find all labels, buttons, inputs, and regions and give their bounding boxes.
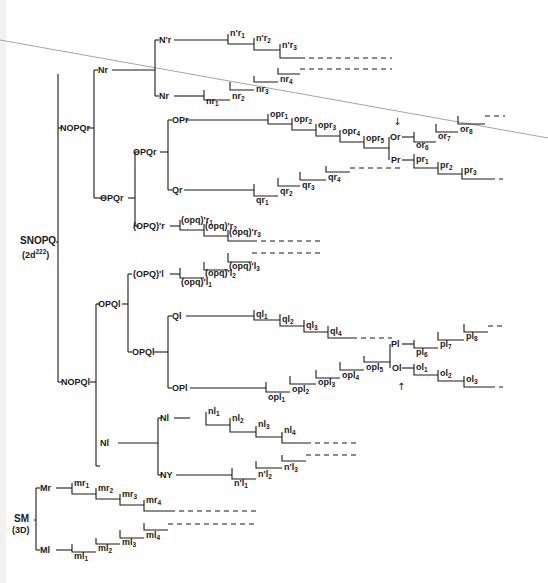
arrow-up-icon: ↑ xyxy=(397,381,405,392)
blast-n-prime-l-2: n'l2 xyxy=(258,469,272,482)
blast-m-l-1: ml1 xyxy=(74,551,88,564)
node-p-l: Pl xyxy=(391,339,400,349)
blast-op-l-1: opl1 xyxy=(268,392,285,405)
blast-q-l-3: ql3 xyxy=(306,320,318,333)
blast-n-r-4: nr4 xyxy=(280,74,293,87)
node-opq-l-inner: OPQl xyxy=(132,347,155,357)
blast-o-r-6: or6 xyxy=(416,140,429,153)
blast-o-l-1: ol1 xyxy=(416,362,428,375)
blast-op-r-2: opr2 xyxy=(294,114,312,127)
node-opq-r: OPQr xyxy=(100,193,124,203)
node-o-l: Ol xyxy=(392,363,402,373)
blast-q-r-4: qr4 xyxy=(328,172,341,185)
blast-n-l-3: nl3 xyxy=(258,419,270,432)
blast-op-l-4: opl4 xyxy=(342,370,359,383)
node-q-r: Qr xyxy=(172,185,183,195)
blast-p-r-3: pr3 xyxy=(464,165,477,178)
node-opq-prime-l: (OPQ)'l xyxy=(133,269,164,279)
node-n-r: Nr xyxy=(98,65,108,75)
blast-m-l-3: ml3 xyxy=(122,537,136,550)
node-nopq-r: NOPQr xyxy=(60,123,90,133)
blast-p-l-7: pl7 xyxy=(440,339,452,352)
node-opq-r-inner: OPQr xyxy=(133,147,157,157)
blast-p-r-1: pr1 xyxy=(416,154,429,167)
blast-n-prime-l-1: n'l1 xyxy=(234,478,248,491)
node-nopq-l: NOPQl xyxy=(61,377,90,387)
blast-o-r-8: or8 xyxy=(460,124,473,137)
blast-n-prime-r-1: n'r1 xyxy=(230,28,245,41)
blast-o-r-7: or7 xyxy=(438,131,451,144)
blast-m-l-2: ml2 xyxy=(98,543,112,556)
blast-op-r-3: opr3 xyxy=(318,120,336,133)
blast-q-l-1: ql1 xyxy=(256,309,268,322)
node-p-r: Pr xyxy=(391,155,401,165)
node-n-prime-r: N'r xyxy=(159,35,171,45)
root-snopq-sublabel: (2d222) xyxy=(22,247,49,260)
blast-n-prime-l-3: n'l3 xyxy=(284,462,298,475)
node-n-l-sub: Nl xyxy=(160,413,169,423)
blast-p-l-8: pl8 xyxy=(466,331,478,344)
blast-n-r-3: nr3 xyxy=(256,84,269,97)
blast-op-l-3: opl3 xyxy=(318,377,335,390)
node-q-l: Ql xyxy=(172,311,182,321)
blast-n-l-1: nl1 xyxy=(208,406,220,419)
root-sm-sublabel: (3D) xyxy=(12,525,30,535)
blast-m-r-3: mr3 xyxy=(122,489,137,502)
blast-q-l-2: ql2 xyxy=(282,314,294,327)
blast-op-r-4: opr4 xyxy=(342,126,360,139)
blast-op-r-1: opr1 xyxy=(270,109,288,122)
node-op-l: OPl xyxy=(172,383,188,393)
blast-q-r-1: qr1 xyxy=(256,195,269,208)
blast-m-r-2: mr2 xyxy=(98,483,113,496)
node-m-r: Mr xyxy=(40,483,51,493)
blast-n-l-2: nl2 xyxy=(232,413,244,426)
blast-opq-prime-l-3: (opq)'l3 xyxy=(229,261,260,274)
blast-q-l-4: ql4 xyxy=(330,326,342,339)
blast-n-r-1: nr1 xyxy=(206,96,219,109)
blast-p-l-6: pl6 xyxy=(416,347,428,360)
node-n-y: NY xyxy=(160,470,173,480)
root-snopq-label: SNOPQ xyxy=(20,236,56,246)
node-opq-prime-r: (OPQ)'r xyxy=(133,221,165,231)
blast-op-r-5: opr5 xyxy=(366,133,384,146)
blast-o-l-3: ol3 xyxy=(466,374,478,387)
node-opq-l: OPQl xyxy=(98,299,121,309)
blast-n-r-2: nr2 xyxy=(232,91,245,104)
root-sm-label: SM xyxy=(14,514,29,524)
blast-op-l-5: opl5 xyxy=(366,362,383,375)
blast-m-r-4: mr4 xyxy=(146,495,161,508)
blast-n-l-4: nl4 xyxy=(284,425,296,438)
node-m-l: Ml xyxy=(40,545,50,555)
blast-q-r-2: qr2 xyxy=(280,186,293,199)
blast-p-r-2: pr2 xyxy=(440,160,453,173)
node-o-r: Or xyxy=(390,132,401,142)
blast-opq-prime-r-3: (opq)'r3 xyxy=(229,227,261,240)
blast-op-l-2: opl2 xyxy=(292,384,309,397)
node-op-r: OPr xyxy=(172,115,189,125)
blast-m-l-4: ml4 xyxy=(146,530,160,543)
node-n-l: Nl xyxy=(100,438,109,448)
blast-n-prime-r-3: n'r3 xyxy=(282,40,297,53)
blast-n-prime-r-2: n'r2 xyxy=(256,33,271,46)
arrow-down-icon: ↓ xyxy=(393,116,401,127)
blast-q-r-3: qr3 xyxy=(302,180,315,193)
blast-o-l-2: ol2 xyxy=(440,368,452,381)
node-n-r-sub: Nr xyxy=(159,91,169,101)
blast-m-r-1: mr1 xyxy=(74,478,89,491)
lineage-tree-lines xyxy=(0,0,548,583)
